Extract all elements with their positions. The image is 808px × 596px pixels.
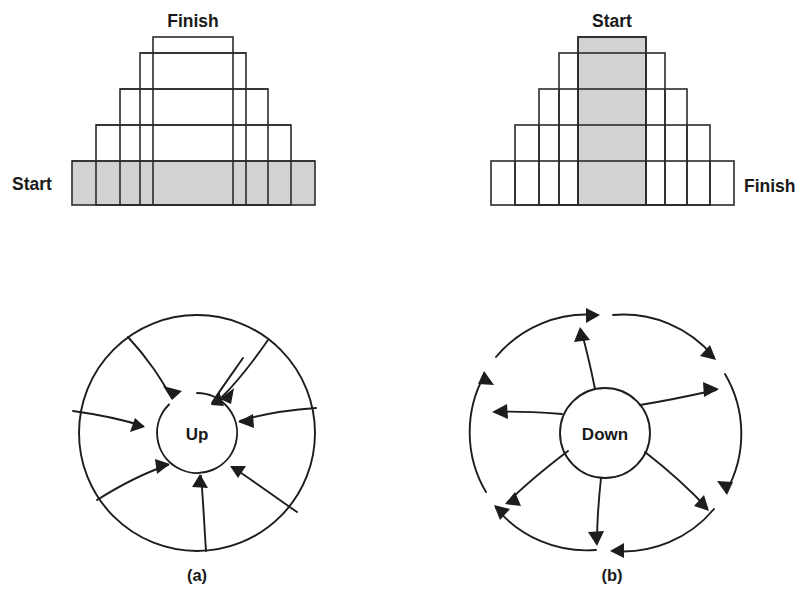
wheel-a-spoke-7 xyxy=(73,411,143,426)
panel-b-caption: (b) xyxy=(601,566,622,584)
wheel-b-outer-arrowhead-5 xyxy=(478,371,494,385)
wheel-b-outer-arc-1 xyxy=(613,315,714,357)
wheel-a-center-label: Up xyxy=(186,425,209,444)
pyramid-b-finish-label: Finish xyxy=(744,176,796,196)
wheel-a-arrowhead-5 xyxy=(192,474,208,488)
diagram-canvas: Start Finish Start Finish xyxy=(0,0,808,596)
wheel-b-arrowhead-6 xyxy=(574,327,590,342)
pyramid-b-center-column-shaded xyxy=(578,37,646,205)
wheel-b-outer-arc-4 xyxy=(496,508,596,550)
wheel-a-spoke-4 xyxy=(232,467,297,512)
wheel-a-arrowhead-7 xyxy=(130,418,145,432)
wheel-b-arrowhead-1 xyxy=(703,382,719,397)
wheel-b-outer-arrowhead-4 xyxy=(494,505,510,520)
wheel-b-arrowhead-4 xyxy=(505,492,521,506)
wheel-a-spoke-2 xyxy=(222,340,268,397)
pyramid-b-start-label: Start xyxy=(592,11,632,31)
wheel-b-outer-arc-2 xyxy=(725,374,741,492)
wheel-b-outer-arc-5 xyxy=(470,374,486,492)
pyramid-a-finish-label: Finish xyxy=(167,11,219,31)
pyramid-a-level-bottom-shaded xyxy=(72,161,315,205)
wheel-b-center-label: Down xyxy=(582,425,628,444)
wheel-b-outer-arc-3 xyxy=(613,509,714,551)
wheel-b-outer-arrowhead-3 xyxy=(610,543,624,558)
wheel-a-arrowhead-4 xyxy=(230,466,246,478)
wheel-b-spoke-2 xyxy=(645,452,707,508)
pyramid-a-start-label: Start xyxy=(12,174,52,194)
panel-a-caption: (a) xyxy=(187,566,207,584)
wheel-b-spoke-4 xyxy=(508,451,568,502)
wheel-b-outer-arrowhead-2 xyxy=(717,481,733,495)
figure-root: Start Finish Start Finish xyxy=(0,0,808,596)
panel-b-wheel: Down (b) xyxy=(470,308,742,584)
wheel-b-arrowhead-5 xyxy=(492,404,508,419)
wheel-a-arrowhead-3 xyxy=(238,414,254,428)
panel-a-wheel: Up (a) xyxy=(73,315,316,584)
wheel-b-outer-arrowhead-1 xyxy=(700,345,716,360)
panel-b-pyramid: Start Finish xyxy=(491,11,796,205)
panel-a-pyramid: Start Finish xyxy=(12,11,315,205)
wheel-b-outer-arrowhead-6 xyxy=(586,308,600,323)
wheel-b-arrowhead-3 xyxy=(588,531,604,546)
wheel-a-arrowhead-1 xyxy=(163,386,182,400)
